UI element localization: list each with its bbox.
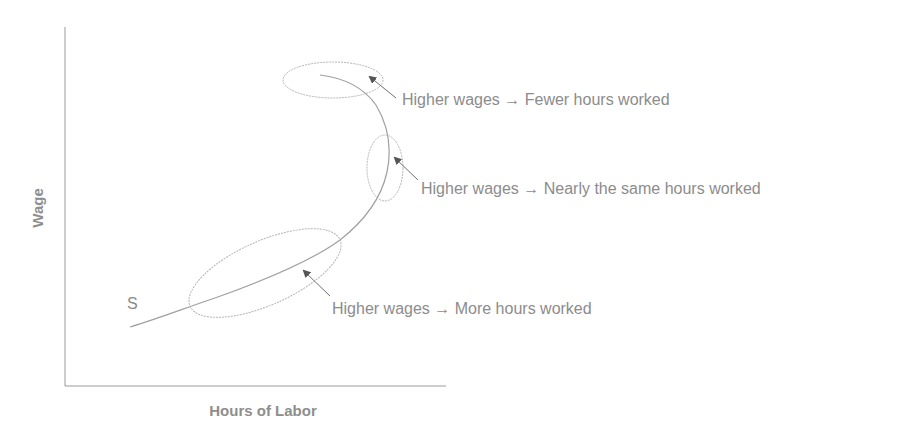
annotation-fewer-hours: Higher wages → Fewer hours worked bbox=[402, 91, 670, 108]
arrow-more-hours bbox=[304, 271, 330, 296]
arrow-same-hours bbox=[395, 158, 418, 180]
ellipse-fewer-hours bbox=[283, 62, 383, 98]
ellipse-more-hours bbox=[177, 210, 353, 335]
labor-supply-diagram: Wage Hours of Labor S Higher wages → Few… bbox=[0, 0, 899, 432]
ellipse-same-hours bbox=[367, 135, 403, 201]
curve-label-s: S bbox=[127, 295, 138, 312]
annotation-more-hours: Higher wages → More hours worked bbox=[332, 300, 592, 317]
annotation-same-hours: Higher wages → Nearly the same hours wor… bbox=[421, 180, 761, 197]
x-axis-label: Hours of Labor bbox=[209, 402, 317, 419]
y-axis-label: Wage bbox=[29, 188, 46, 227]
supply-curve bbox=[130, 75, 389, 327]
